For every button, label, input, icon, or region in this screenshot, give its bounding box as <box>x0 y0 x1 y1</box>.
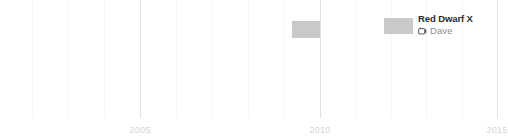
axis-tick-2005: 2005 <box>130 125 151 135</box>
tv-icon <box>418 27 427 35</box>
event-bar[interactable] <box>384 18 413 34</box>
event-label-group: Red Dwarf X Dave <box>418 14 473 37</box>
gridline-minor <box>32 0 33 118</box>
axis-tick-2015: 2015 <box>487 125 508 135</box>
gridline-major-2015 <box>497 0 498 118</box>
gridline-minor <box>212 0 213 118</box>
gridline-major-2005 <box>140 0 141 118</box>
gridline-minor <box>104 0 105 118</box>
gridline-minor <box>284 0 285 118</box>
gridline-minor <box>68 0 69 118</box>
gridline-major-2010 <box>320 0 321 118</box>
event-title: Red Dwarf X <box>418 14 473 25</box>
event-bar[interactable] <box>292 21 320 38</box>
timeline-chart: 2005 2010 2015 Red Dwarf: Back to Earth … <box>0 0 508 138</box>
axis-tick-2010: 2010 <box>310 125 331 135</box>
event-channel-name: Dave <box>430 26 453 37</box>
event-channel-row: Dave <box>418 26 473 37</box>
gridline-minor <box>176 0 177 118</box>
gridline-minor <box>355 0 356 118</box>
gridline-minor <box>248 0 249 118</box>
